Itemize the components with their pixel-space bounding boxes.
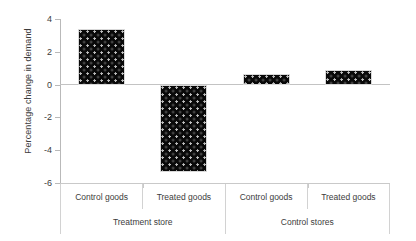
y-tick-label: -2 bbox=[44, 112, 52, 122]
y-tick bbox=[55, 85, 60, 86]
bar-chart: Percentage change in demand 420-2-4-6 Co… bbox=[0, 0, 416, 241]
bar bbox=[160, 85, 207, 172]
bar bbox=[325, 70, 372, 85]
bar bbox=[78, 29, 125, 85]
group-label: Control stores bbox=[226, 209, 390, 234]
y-axis-line bbox=[60, 19, 61, 183]
category-label: Control goods bbox=[226, 184, 308, 209]
bar bbox=[243, 74, 290, 85]
plot-area: 420-2-4-6 bbox=[60, 19, 390, 183]
y-tick-label: 0 bbox=[47, 80, 52, 90]
y-tick-label: -4 bbox=[44, 145, 52, 155]
category-label: Treated goods bbox=[308, 184, 389, 209]
y-tick bbox=[55, 52, 60, 53]
group-label: Treatment store bbox=[61, 209, 226, 234]
y-tick-label: -6 bbox=[44, 178, 52, 188]
category-label: Control goods bbox=[61, 184, 143, 209]
y-tick-label: 2 bbox=[47, 47, 52, 57]
y-tick bbox=[55, 19, 60, 20]
y-axis-title: Percentage change in demand bbox=[23, 1, 33, 181]
category-label: Treated goods bbox=[143, 184, 225, 209]
category-row: Control goodsTreated goodsControl goodsT… bbox=[61, 184, 389, 209]
y-tick-label: 4 bbox=[47, 14, 52, 24]
y-tick bbox=[55, 150, 60, 151]
group-row: Treatment storeControl stores bbox=[61, 209, 389, 234]
category-label-table: Control goodsTreated goodsControl goodsT… bbox=[60, 184, 390, 234]
y-tick bbox=[55, 117, 60, 118]
